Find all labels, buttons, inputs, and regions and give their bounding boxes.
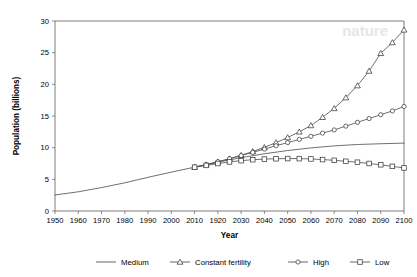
legend-item-constant-fertility: Constant fertility bbox=[170, 258, 251, 267]
data-marker-circle bbox=[379, 113, 383, 117]
x-tick-label: 2000 bbox=[163, 216, 180, 225]
y-tick-label: 20 bbox=[41, 80, 49, 89]
legend-label: Constant fertility bbox=[195, 258, 251, 267]
data-marker-square bbox=[227, 160, 232, 165]
data-marker-square bbox=[378, 162, 383, 167]
data-marker-square bbox=[239, 158, 244, 163]
data-marker-circle bbox=[309, 134, 313, 138]
data-marker-square bbox=[285, 156, 290, 161]
data-marker-square bbox=[216, 161, 221, 166]
x-tick-label: 2060 bbox=[302, 216, 319, 225]
data-marker-triangle bbox=[308, 123, 314, 128]
y-tick-label: 30 bbox=[41, 17, 49, 26]
data-marker-circle bbox=[239, 153, 243, 157]
x-axis-title: Year bbox=[221, 231, 239, 240]
x-tick-label: 1990 bbox=[140, 216, 157, 225]
x-tick-label: 2090 bbox=[372, 216, 389, 225]
data-marker-circle bbox=[262, 147, 266, 151]
data-marker-circle bbox=[297, 137, 301, 141]
data-marker-circle bbox=[344, 124, 348, 128]
data-marker-square bbox=[274, 156, 279, 161]
data-marker-circle bbox=[332, 128, 336, 132]
legend-item-medium: Medium bbox=[96, 258, 149, 267]
population-projection-chart: nature0510152025301950196019701980199020… bbox=[0, 0, 417, 277]
x-tick-label: 2080 bbox=[349, 216, 366, 225]
x-tick-label: 1950 bbox=[47, 216, 64, 225]
data-marker-square bbox=[297, 156, 302, 161]
data-marker-triangle bbox=[296, 129, 302, 134]
x-tick-label: 2010 bbox=[186, 216, 203, 225]
y-axis-title: Population (billions) bbox=[12, 76, 21, 155]
data-marker-square bbox=[344, 159, 349, 164]
x-tick-label: 2040 bbox=[256, 216, 273, 225]
x-tick-label: 2030 bbox=[233, 216, 250, 225]
y-tick-label: 0 bbox=[45, 207, 49, 216]
data-marker-triangle bbox=[366, 68, 372, 73]
data-marker-square bbox=[204, 163, 209, 168]
data-marker-circle bbox=[251, 150, 255, 154]
data-marker-circle bbox=[274, 144, 278, 148]
series-low bbox=[192, 156, 406, 170]
data-marker-square bbox=[309, 157, 314, 162]
x-tick-label: 1920 bbox=[209, 216, 226, 225]
data-marker-triangle bbox=[320, 114, 326, 119]
data-marker-circle bbox=[390, 109, 394, 113]
y-tick-label: 15 bbox=[41, 112, 49, 121]
data-marker-square bbox=[358, 260, 363, 265]
series-medium bbox=[55, 143, 404, 195]
data-marker-circle bbox=[355, 120, 359, 124]
data-marker-circle bbox=[367, 116, 371, 120]
data-marker-triangle bbox=[401, 27, 407, 32]
legend-label: Low bbox=[375, 258, 390, 267]
data-marker-square bbox=[367, 161, 372, 166]
data-marker-square bbox=[390, 164, 395, 169]
chart-legend: MediumConstant fertilityHighLow bbox=[96, 258, 390, 267]
data-marker-square bbox=[262, 157, 267, 162]
series-constant-fertility bbox=[192, 27, 407, 169]
chart-canvas: nature0510152025301950196019701980199020… bbox=[0, 0, 417, 277]
plot-frame bbox=[55, 21, 404, 211]
data-marker-circle bbox=[320, 131, 324, 135]
series-line bbox=[195, 30, 404, 167]
watermark: nature bbox=[342, 22, 388, 39]
x-tick-label: 2050 bbox=[279, 216, 296, 225]
data-marker-circle bbox=[296, 260, 300, 264]
data-marker-square bbox=[250, 157, 255, 162]
x-tick-label: 1980 bbox=[116, 216, 133, 225]
series-line bbox=[55, 143, 404, 195]
data-marker-square bbox=[402, 166, 407, 171]
y-tick-label: 10 bbox=[41, 143, 49, 152]
data-marker-square bbox=[355, 160, 360, 165]
data-marker-circle bbox=[286, 141, 290, 145]
data-marker-circle bbox=[402, 104, 406, 108]
legend-label: Medium bbox=[121, 258, 149, 267]
data-marker-square bbox=[192, 165, 197, 170]
x-tick-label: 2100 bbox=[396, 216, 413, 225]
x-tick-label: 2070 bbox=[326, 216, 343, 225]
legend-label: High bbox=[313, 258, 329, 267]
x-tick-label: 1970 bbox=[93, 216, 110, 225]
legend-item-high: High bbox=[288, 258, 329, 267]
y-tick-label: 25 bbox=[41, 48, 49, 57]
legend-item-low: Low bbox=[350, 258, 390, 267]
data-marker-square bbox=[320, 157, 325, 162]
data-marker-triangle bbox=[285, 135, 291, 140]
data-marker-square bbox=[332, 158, 337, 163]
y-tick-label: 5 bbox=[45, 175, 49, 184]
x-tick-label: 1960 bbox=[70, 216, 87, 225]
